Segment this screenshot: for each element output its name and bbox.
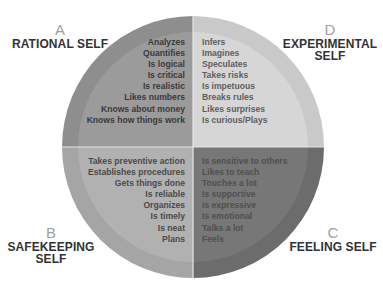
trait-item: Feels [202, 234, 288, 245]
traits-list-rational: Analyzes Quantifies Is logical Is critic… [87, 37, 185, 126]
trait-item: Likes to teach [202, 167, 288, 178]
label-safekeeping-self: B SAFEKEEPING SELF [6, 225, 96, 266]
quadrant-title-c: FEELING SELF [286, 241, 380, 254]
quadrant-title-d-line2: SELF [280, 50, 380, 63]
trait-item: Establishes procedures [88, 167, 185, 178]
trait-item: Takes risks [202, 70, 267, 81]
traits-list-safekeeping: Takes preventive action Establishes proc… [88, 156, 185, 245]
trait-item: Is reliable [88, 189, 185, 200]
trait-item: Breaks rules [202, 92, 267, 103]
trait-item: Likes surprises [202, 104, 267, 115]
trait-item: Is timely [88, 211, 185, 222]
trait-item: Is sensitive to others [202, 156, 288, 167]
trait-item: Organizes [88, 200, 185, 211]
trait-item: Is logical [87, 59, 185, 70]
trait-item: Analyzes [87, 37, 185, 48]
trait-item: Likes numbers [87, 92, 185, 103]
trait-item: Infers [202, 37, 267, 48]
trait-item: Is impetuous [202, 81, 267, 92]
trait-item: Gets things done [88, 178, 185, 189]
trait-item: Is realistic [87, 81, 185, 92]
trait-item: Is critical [87, 70, 185, 81]
trait-item: Quantifies [87, 48, 185, 59]
trait-item: Plans [88, 234, 185, 245]
trait-item: Talks a lot [202, 223, 288, 234]
trait-item: Speculates [202, 59, 267, 70]
trait-item: Takes preventive action [88, 156, 185, 167]
quadrant-letter-b: B [6, 225, 96, 241]
trait-item: Imagines [202, 48, 267, 59]
quadrant-letter-d: D [280, 22, 380, 38]
quadrant-letter-c: C [286, 225, 380, 241]
whole-brain-diagram: A RATIONAL SELF D EXPERIMENTAL SELF B SA… [0, 0, 383, 291]
trait-item: Knows how things work [87, 115, 185, 126]
quadrant-title-b-line2: SELF [6, 253, 96, 266]
trait-item: Knows about money [87, 104, 185, 115]
trait-item: Is expressive [202, 200, 288, 211]
trait-item: Is emotional [202, 211, 288, 222]
trait-item: Is supportive [202, 189, 288, 200]
trait-item: Touches a lot [202, 178, 288, 189]
label-feeling-self: C FEELING SELF [286, 225, 380, 253]
trait-item: Is curious/Plays [202, 115, 267, 126]
quadrant-letter-a: A [4, 22, 116, 38]
traits-list-feeling: Is sensitive to others Likes to teach To… [202, 156, 288, 245]
trait-item: Is neat [88, 223, 185, 234]
label-experimental-self: D EXPERIMENTAL SELF [280, 22, 380, 63]
traits-list-experimental: Infers Imagines Speculates Takes risks I… [202, 37, 267, 126]
